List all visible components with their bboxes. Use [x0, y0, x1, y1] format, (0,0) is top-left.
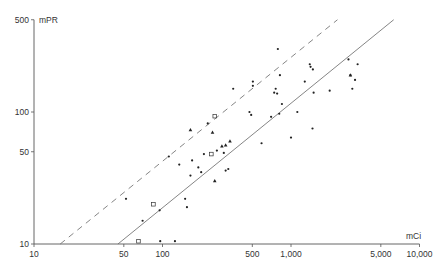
- triangle-marker: [211, 130, 215, 133]
- dot-marker: [278, 113, 280, 115]
- y-tick-label: 100: [15, 107, 29, 117]
- axes: 10501005001,0005,00010,0001050100500: [15, 15, 433, 259]
- dot-marker: [225, 169, 227, 171]
- dot-marker: [309, 63, 311, 65]
- x-tick-label: 500: [245, 249, 259, 259]
- dot-marker: [329, 90, 331, 92]
- dot-marker: [354, 79, 356, 81]
- triangle-marker: [224, 143, 228, 146]
- dot-marker: [309, 66, 311, 68]
- dot-marker: [223, 152, 225, 154]
- square-marker: [210, 152, 214, 156]
- y-tick-label: 500: [15, 15, 29, 25]
- square-marker: [213, 114, 217, 118]
- dot-marker: [191, 159, 193, 161]
- dot-marker: [248, 111, 250, 113]
- dot-marker: [197, 166, 199, 168]
- dot-marker: [216, 150, 218, 152]
- triangle-marker: [228, 139, 232, 142]
- dot-marker: [200, 171, 202, 173]
- x-tick-label: 1,000: [280, 249, 302, 259]
- dot-marker: [273, 92, 275, 94]
- dot-marker: [184, 198, 186, 200]
- square-marker: [152, 202, 156, 206]
- dot-marker: [227, 168, 229, 170]
- x-tick-label: 5,000: [370, 249, 392, 259]
- dot-marker: [174, 240, 176, 242]
- x-tick-label: 50: [119, 249, 129, 259]
- dot-marker: [141, 220, 143, 222]
- dot-marker: [207, 122, 209, 124]
- triangle-marker: [349, 73, 353, 76]
- dot-marker: [260, 142, 262, 144]
- dot-marker: [186, 206, 188, 208]
- dot-marker: [232, 88, 234, 90]
- dot-marker: [347, 58, 349, 60]
- dot-marker: [159, 240, 161, 242]
- x-axis-title: mCi: [406, 231, 421, 241]
- dot-marker: [311, 127, 313, 129]
- y-tick-label: 10: [20, 239, 30, 249]
- triangle-marker: [213, 179, 217, 182]
- dot-marker: [304, 80, 306, 82]
- dot-marker: [270, 116, 272, 118]
- scatter-chart: 10501005001,0005,00010,0001050100500 mPR…: [0, 0, 439, 271]
- dot-marker: [159, 209, 161, 211]
- square-marker: [137, 239, 141, 243]
- dot-marker: [281, 103, 283, 105]
- dot-marker: [250, 114, 252, 116]
- dot-marker: [351, 88, 353, 90]
- x-tick-label: 10,000: [407, 249, 433, 259]
- dot-marker: [279, 74, 281, 76]
- triangle-marker: [189, 128, 193, 131]
- dot-marker: [357, 63, 359, 65]
- dot-marker: [203, 153, 205, 155]
- dot-marker: [189, 174, 191, 176]
- dot-marker: [252, 85, 254, 87]
- dot-marker: [312, 68, 314, 70]
- dot-marker: [296, 111, 298, 113]
- dot-marker: [290, 136, 292, 138]
- dot-marker: [125, 198, 127, 200]
- triangle-marker: [220, 144, 224, 147]
- reference-lines: [60, 20, 393, 244]
- upper-limit-line: [60, 20, 337, 244]
- dot-marker: [168, 155, 170, 157]
- dot-marker: [252, 80, 254, 82]
- axis-labels: mPR mCi: [39, 15, 421, 241]
- dot-marker: [313, 92, 315, 94]
- x-tick-label: 100: [155, 249, 169, 259]
- dot-marker: [178, 163, 180, 165]
- dot-marker: [277, 48, 279, 50]
- y-axis-title: mPR: [39, 15, 58, 25]
- y-tick-label: 50: [20, 147, 30, 157]
- dot-marker: [276, 92, 278, 94]
- dot-marker: [275, 88, 277, 90]
- x-tick-label: 10: [29, 249, 39, 259]
